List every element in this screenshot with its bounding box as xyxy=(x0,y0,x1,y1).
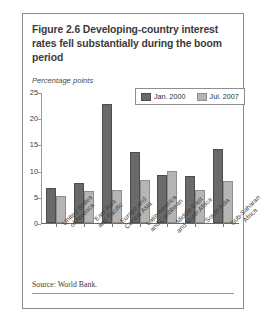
y-tick-mark xyxy=(38,145,41,146)
y-axis-title: Percentage points xyxy=(32,76,93,85)
x-label-slot: Middle East and North Africa xyxy=(154,226,182,296)
x-label-slot: Sub-Saharan Africa xyxy=(210,226,238,296)
y-tick-label: 15 xyxy=(30,140,38,149)
figure-panel: Figure 2.6 Developing-country interest r… xyxy=(22,13,244,309)
source-divider xyxy=(32,293,234,294)
legend-swatch xyxy=(197,93,207,101)
x-label-slot: South Asia xyxy=(182,226,210,296)
bar[interactable] xyxy=(46,188,56,223)
legend-label: Jan. 2000 xyxy=(154,92,186,101)
y-tick-mark xyxy=(38,93,41,94)
legend-swatch xyxy=(141,93,151,101)
chart-legend: Jan. 2000Jul. 2007 xyxy=(135,88,245,105)
bar-group xyxy=(42,93,70,223)
figure-title: Figure 2.6 Developing-country interest r… xyxy=(32,23,238,65)
y-tick-label: 25 xyxy=(30,88,38,97)
y-tick-mark xyxy=(38,224,41,225)
y-tick-label: 10 xyxy=(30,167,38,176)
source-note: Source: World Bank. xyxy=(32,280,97,289)
legend-entry[interactable]: Jul. 2007 xyxy=(197,92,239,101)
legend-entry[interactable]: Jan. 2000 xyxy=(141,92,186,101)
y-tick-mark xyxy=(38,198,41,199)
y-tick-mark xyxy=(38,172,41,173)
y-tick-mark xyxy=(38,119,41,120)
x-label-slot: Europe and Central Asia xyxy=(98,226,126,296)
x-label-slot: Latin America and Caribbean xyxy=(126,226,154,296)
legend-label: Jul. 2007 xyxy=(210,92,239,101)
y-tick-label: 20 xyxy=(30,114,38,123)
